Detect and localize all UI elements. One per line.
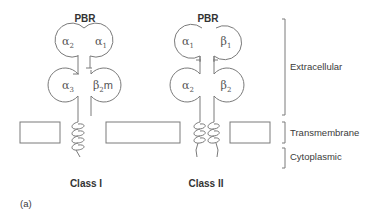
class-i-domain-alpha1: α1 [95, 35, 107, 50]
class-ii-title: Class II [188, 178, 223, 189]
extracellular-bracket [282, 19, 285, 115]
cytoplasmic-label: Cytoplasmic [290, 151, 342, 162]
class-ii-domain-alpha1: α1 [182, 35, 194, 50]
class-ii-alpha-stem [196, 56, 201, 122]
cytoplasmic-bracket [282, 148, 285, 168]
panel-label: (a) [20, 198, 32, 209]
class-ii-pbr-label: PBR [197, 13, 219, 24]
class-ii-beta-stem [213, 56, 218, 122]
class-i-alpha2-domain [55, 23, 84, 57]
transmembrane-bracket [282, 122, 285, 143]
class-ii-molecule: PBR α1 β1 α2 β2 Class II [170, 13, 244, 189]
class-ii-beta-transmembrane-helix [208, 122, 219, 157]
class-i-molecule: PBR α2 α1 α3 β2m Class I [48, 13, 121, 189]
class-ii-domain-alpha2: α2 [182, 79, 194, 94]
membrane [20, 122, 270, 143]
class-i-transmembrane-helix [72, 122, 84, 157]
class-ii-alpha-transmembrane-helix [194, 122, 205, 157]
class-ii-domain-beta2: β2 [221, 79, 232, 94]
mhc-diagram: PBR α2 α1 α3 β2m Class I PBR [0, 0, 380, 214]
region-brackets: Extracellular Transmembrane Cytoplasmic [282, 19, 359, 168]
class-i-domain-alpha2: α2 [62, 35, 74, 50]
class-ii-domain-beta1: β1 [221, 35, 232, 50]
class-ii-beta2-domain [214, 68, 244, 102]
class-i-domain-beta2m: β2m [93, 79, 113, 94]
membrane-segment-middle [106, 122, 180, 143]
transmembrane-label: Transmembrane [290, 127, 359, 138]
extracellular-label: Extracellular [290, 61, 342, 72]
class-i-alpha1-tail [86, 56, 92, 68]
class-i-domain-alpha3: α3 [62, 79, 74, 94]
class-i-title: Class I [70, 178, 102, 189]
membrane-segment-right [230, 122, 270, 143]
class-i-pbr-label: PBR [74, 13, 96, 24]
membrane-segment-left [20, 122, 60, 143]
